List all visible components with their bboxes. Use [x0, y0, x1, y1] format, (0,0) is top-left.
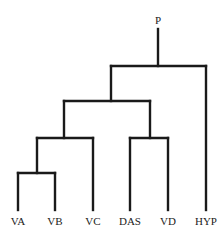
root-label: P — [155, 14, 161, 26]
leaf-label-hyp: HYP — [195, 215, 217, 227]
leaf-label-das: DAS — [119, 215, 141, 227]
leaf-label-vc: VC — [85, 215, 100, 227]
leaf-label-vd: VD — [160, 215, 176, 227]
leaf-label-vb: VB — [47, 215, 62, 227]
leaf-label-va: VA — [11, 215, 26, 227]
tree-edges — [18, 29, 206, 210]
dendrogram: P VA VB VC DAS VD HYP — [0, 0, 224, 236]
